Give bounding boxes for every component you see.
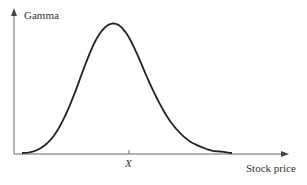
x-axis-arrow-icon [281, 151, 289, 157]
y-axis-label: Gamma [24, 9, 59, 21]
y-axis-arrow-icon [11, 8, 17, 16]
gamma-chart: Gamma Stock price X [0, 0, 307, 185]
x-axis-label: Stock price [246, 162, 296, 174]
gamma-curve [22, 23, 232, 153]
strike-label: X [124, 157, 133, 169]
